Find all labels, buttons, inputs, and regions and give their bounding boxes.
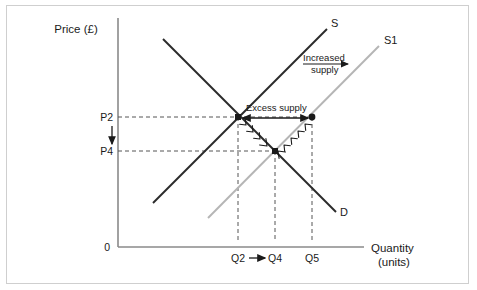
excess-supply-endpoint	[309, 114, 316, 121]
origin-label: 0	[104, 241, 110, 253]
supply-demand-chart: Price (£) Quantity (units) 0 P2 P4 Q2 Q4…	[0, 0, 477, 290]
equilibrium-point-original	[235, 114, 241, 120]
y-axis-label: Price (£)	[54, 23, 98, 35]
price-tick-p4: P4	[100, 145, 113, 157]
demand-adjustment-chevrons	[240, 119, 271, 150]
equilibrium-points-group	[235, 114, 315, 154]
increased-supply-label-line1: Increased	[303, 52, 345, 63]
supply-curve-s1	[208, 46, 379, 218]
curve-label-s1: S1	[384, 34, 397, 46]
x-axis-label-line1: Quantity	[371, 242, 414, 254]
x-axis-label-line2: (units)	[378, 256, 410, 268]
supply-adjustment-chevrons	[275, 121, 312, 158]
figure-container: Price (£) Quantity (units) 0 P2 P4 Q2 Q4…	[0, 0, 477, 290]
equilibrium-point-new	[272, 148, 278, 154]
curve-label-s: S	[331, 17, 338, 29]
increased-supply-label-line2: supply	[311, 64, 339, 75]
quantity-tick-q2: Q2	[231, 252, 245, 264]
price-tick-p2: P2	[100, 111, 113, 123]
curves-group	[153, 29, 379, 218]
quantity-tick-q5: Q5	[305, 252, 319, 264]
curve-label-d: D	[340, 206, 348, 218]
guide-lines-group	[118, 117, 313, 240]
excess-supply-label: Excess supply	[246, 102, 307, 113]
quantity-tick-q4: Q4	[268, 252, 282, 264]
